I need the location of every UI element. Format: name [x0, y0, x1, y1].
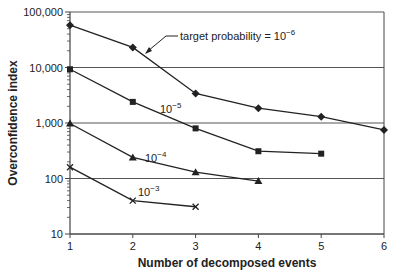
x-tick-label: 6	[381, 240, 387, 252]
diamond-marker	[66, 21, 74, 29]
y-tick-label: 10	[51, 228, 63, 240]
square-marker	[193, 125, 199, 131]
diamond-marker	[380, 126, 388, 134]
series-label: target probability = 10−6	[180, 28, 296, 42]
x-tick-label: 3	[193, 240, 199, 252]
diamond-marker	[254, 104, 262, 112]
axes: 101001,00010,000100,000123456	[23, 6, 387, 252]
x-tick-label: 1	[67, 240, 73, 252]
y-tick-label: 10,000	[29, 62, 63, 74]
leader-line	[148, 36, 178, 51]
y-tick-label: 100,000	[23, 6, 63, 18]
data-series	[66, 21, 388, 210]
x-tick-label: 4	[255, 240, 261, 252]
series-labels: target probability = 10−610−510−410−3	[138, 28, 296, 198]
square-marker	[255, 148, 261, 154]
x-tick-label: 5	[318, 240, 324, 252]
series-label: 10−4	[145, 150, 167, 164]
triangle-marker	[129, 153, 137, 160]
y-tick-label: 100	[45, 173, 63, 185]
square-marker	[67, 66, 73, 72]
gridlines	[70, 12, 384, 234]
x-tick-label: 2	[130, 240, 136, 252]
series-label: 10−5	[160, 101, 182, 115]
series-x	[67, 164, 199, 210]
overconfidence-chart: 101001,00010,000100,000123456 target pro…	[0, 0, 393, 276]
y-tick-label: 1,000	[35, 117, 63, 129]
square-marker	[318, 151, 324, 157]
x-axis-title: Number of decomposed events	[138, 256, 317, 270]
chart-canvas: 101001,00010,000100,000123456 target pro…	[0, 0, 393, 276]
diamond-marker	[317, 113, 325, 121]
square-marker	[130, 99, 136, 105]
y-axis-title: Overconfidence index	[6, 60, 20, 186]
series-label: 10−3	[138, 184, 160, 198]
